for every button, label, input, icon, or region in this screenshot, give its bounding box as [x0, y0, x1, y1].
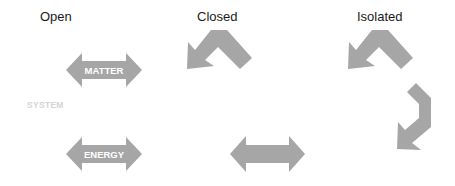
diagram-canvas: MATTER ENERGY: [0, 0, 455, 186]
energy-arrow-label: ENERGY: [84, 149, 125, 160]
closed-bent-arrow-icon: [187, 30, 252, 69]
isolated-top-bent-arrow-icon: [348, 30, 413, 69]
isolated-side-bent-arrow-icon: [397, 83, 431, 150]
matter-arrow-label: MATTER: [85, 65, 124, 76]
closed-energy-arrow-icon: [230, 136, 305, 172]
energy-arrow-icon: ENERGY: [66, 137, 142, 171]
matter-arrow-icon: MATTER: [66, 53, 142, 87]
